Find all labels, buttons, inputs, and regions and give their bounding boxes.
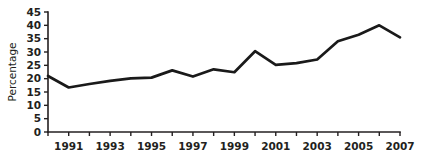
y-tick-label: 35 — [26, 32, 41, 44]
line-chart: 051015202530354045 199119931995199719992… — [0, 0, 426, 166]
y-tick-label: 20 — [26, 72, 41, 84]
y-tick-label: 5 — [34, 112, 41, 124]
x-tick-label: 2005 — [344, 140, 373, 152]
y-tick-label: 30 — [26, 46, 41, 58]
y-tick-label: 15 — [26, 86, 41, 98]
x-tick-label: 1997 — [178, 140, 207, 152]
y-axis-group: 051015202530354045 — [26, 6, 48, 138]
y-tick-label: 10 — [26, 99, 41, 111]
x-tick-label: 2007 — [385, 140, 414, 152]
y-tick-label: 25 — [26, 59, 41, 71]
y-tick-label: 0 — [34, 126, 41, 138]
x-tick-label: 2003 — [303, 140, 332, 152]
x-tick-label: 1991 — [54, 140, 83, 152]
chart-canvas: 051015202530354045 199119931995199719992… — [0, 0, 426, 166]
y-axis-title: Percentage — [6, 42, 18, 101]
x-tick-labels: 199119931995199719992001200320052007 — [54, 140, 415, 152]
y-tick-labels: 051015202530354045 — [26, 6, 41, 138]
x-tick-label: 1995 — [137, 140, 166, 152]
x-axis-group: 199119931995199719992001200320052007 — [48, 132, 415, 152]
y-tick-label: 40 — [26, 19, 41, 31]
data-series-line — [48, 25, 400, 87]
x-tick-label: 1993 — [96, 140, 125, 152]
x-tick-label: 1999 — [220, 140, 249, 152]
x-tick-label: 2001 — [261, 140, 290, 152]
y-tick-label: 45 — [26, 6, 41, 18]
